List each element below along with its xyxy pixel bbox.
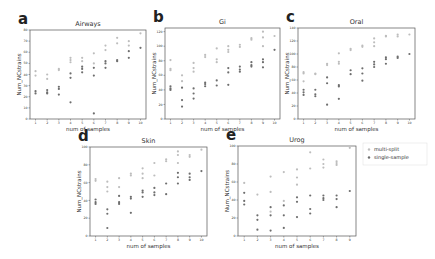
data-point (189, 176, 191, 178)
data-point (142, 177, 144, 179)
data-point (350, 69, 352, 71)
x-tick-label: 8 (385, 121, 387, 125)
data-point (385, 56, 387, 58)
data-point (169, 89, 171, 91)
y-tick-label: 140 (289, 26, 295, 30)
data-point (93, 67, 95, 69)
data-point (239, 68, 241, 70)
data-point (314, 95, 316, 97)
data-point (106, 190, 108, 192)
x-tick-label: 5 (350, 121, 352, 125)
data-point (243, 200, 245, 202)
data-point (177, 162, 179, 164)
data-point (296, 216, 298, 218)
y-tick-label: 20 (83, 216, 87, 220)
data-point (116, 42, 118, 44)
y-tick-label: 60 (291, 78, 295, 82)
data-point (177, 182, 179, 184)
data-point (106, 227, 108, 229)
y-axis-label: Num_NCstrains (16, 53, 23, 95)
x-tick-label: 6 (93, 121, 95, 125)
panel-skin: dSkinnum of samplesNum_NCstrains12345678… (76, 127, 207, 250)
x-tick-label: 6 (309, 238, 311, 242)
data-point (338, 85, 340, 87)
x-tick-label: 6 (153, 238, 155, 242)
data-point (408, 53, 410, 55)
data-point (283, 214, 285, 216)
data-point (142, 196, 144, 198)
x-tick-label: 9 (189, 238, 191, 242)
y-tick-label: 40 (158, 88, 162, 92)
figure-canvas: aAirwaysnum of samplesNum_NCstrains12345… (0, 0, 435, 259)
data-point (192, 87, 194, 89)
y-tick-label: 40 (291, 91, 295, 95)
data-point (106, 213, 108, 215)
panel-urog: eUrognum of samplesNum_NCstrains12345678… (224, 126, 356, 250)
data-point (335, 164, 337, 166)
data-point (216, 84, 218, 86)
data-point (262, 66, 264, 68)
y-tick-label: 60 (158, 73, 162, 77)
data-point (270, 176, 272, 178)
data-point (227, 67, 229, 69)
data-point (262, 36, 264, 38)
data-point (309, 167, 311, 169)
data-point (326, 104, 328, 106)
data-point (81, 68, 83, 70)
y-tick-label: 120 (156, 30, 162, 34)
y-tick-label: 20 (231, 216, 235, 220)
panel-letter: b (153, 8, 164, 26)
data-point (153, 191, 155, 193)
x-tick-label: 4 (204, 121, 206, 125)
data-point (322, 199, 324, 201)
x-tick-label: 1 (35, 121, 37, 125)
x-tick-label: 6 (227, 121, 229, 125)
data-point (192, 62, 194, 64)
panel-letter: a (18, 10, 28, 28)
data-point (338, 52, 340, 54)
y-tick-label: 10 (23, 106, 27, 110)
data-point (58, 86, 60, 88)
y-tick-label: 20 (158, 103, 162, 107)
data-point (250, 39, 252, 41)
data-point (256, 219, 258, 221)
x-tick-label: 2 (256, 238, 258, 242)
data-point (81, 66, 83, 68)
data-point (165, 160, 167, 162)
data-point (361, 72, 363, 74)
data-point (130, 212, 132, 214)
x-tick-label: 8 (116, 121, 118, 125)
x-tick-label: 2 (106, 238, 108, 242)
y-tick-label: 80 (291, 65, 295, 69)
data-point (283, 200, 285, 202)
data-point (361, 80, 363, 82)
data-point (177, 154, 179, 156)
y-tick-label: 0 (160, 117, 162, 121)
data-point (69, 77, 71, 79)
y-tick-label: 40 (231, 198, 235, 202)
data-point (94, 203, 96, 205)
data-point (302, 72, 304, 74)
data-point (128, 44, 130, 46)
data-point (153, 187, 155, 189)
y-tick-label: 60 (23, 50, 27, 54)
plot-frame (165, 28, 280, 119)
data-point (181, 106, 183, 108)
data-point (262, 61, 264, 63)
panel-title: Gi (219, 18, 226, 26)
data-point (169, 59, 171, 61)
x-axis-label: num of samples (275, 243, 319, 250)
data-point (192, 67, 194, 69)
data-point (302, 89, 304, 91)
x-tick-label: 3 (270, 238, 272, 242)
data-point (181, 74, 183, 76)
data-point (165, 193, 167, 195)
x-tick-label: 4 (338, 121, 340, 125)
data-point (34, 92, 36, 94)
data-point (350, 49, 352, 51)
data-point (296, 184, 298, 186)
y-tick-label: 0 (85, 234, 87, 238)
data-point (128, 50, 130, 52)
data-point (262, 45, 264, 47)
data-point (243, 192, 245, 194)
